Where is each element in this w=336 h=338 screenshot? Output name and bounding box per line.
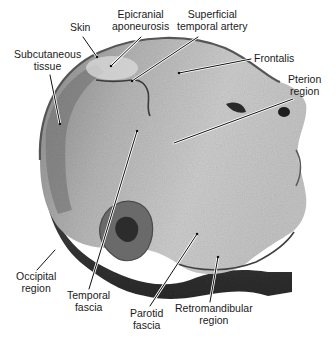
anatomy-figure: Skin Epicranial aponeurosis Superficial … xyxy=(0,0,336,338)
label-skin: Skin xyxy=(70,22,90,34)
label-pterion-region: Pterion region xyxy=(288,74,321,97)
label-occipital-region: Occipital region xyxy=(16,271,56,294)
label-temporal-fascia: Temporal fascia xyxy=(67,290,110,313)
label-epicranial-aponeurosis: Epicranial aponeurosis xyxy=(112,9,169,32)
aponeurosis-area xyxy=(86,56,138,80)
label-superficial-temporal-artery: Superficial temporal artery xyxy=(177,9,248,32)
label-retromandibular-region: Retromandibular region xyxy=(175,303,253,326)
label-parotid-fascia: Parotid fascia xyxy=(130,308,163,331)
label-frontalis: Frontalis xyxy=(254,53,294,65)
nostril xyxy=(278,107,290,117)
label-subcutaneous-tissue: Subcutaneous tissue xyxy=(14,49,81,72)
